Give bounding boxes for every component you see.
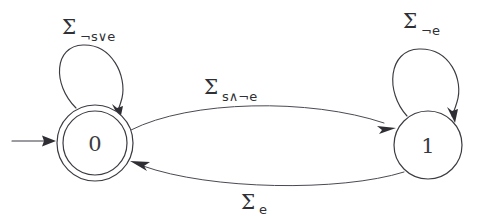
state-node-1[interactable]: 1 xyxy=(394,111,462,179)
sigma-subscript: e xyxy=(259,202,267,216)
sigma-symbol: Σ xyxy=(241,190,255,214)
automaton-canvas: 0 1 Σ ¬s∨e Σ ¬e Σ s∧¬e Σ e xyxy=(0,0,484,216)
sigma-symbol: Σ xyxy=(62,15,76,39)
label-transition-1-to-0: Σ e xyxy=(241,190,267,216)
state-label-0: 0 xyxy=(88,132,101,156)
sigma-subscript: ¬e xyxy=(421,23,440,38)
sigma-symbol: Σ xyxy=(403,9,417,33)
label-self-loop-state-1: Σ ¬e xyxy=(403,9,440,38)
state-label-1: 1 xyxy=(421,134,434,158)
sigma-symbol: Σ xyxy=(204,75,218,99)
label-transition-0-to-1: Σ s∧¬e xyxy=(204,75,257,104)
automaton-figure: 0 1 Σ ¬s∨e Σ ¬e Σ s∧¬e Σ e xyxy=(0,0,484,216)
transition-1-to-0[interactable] xyxy=(130,161,404,186)
transition-0-to-1[interactable] xyxy=(131,106,396,134)
sigma-subscript: ¬s∨e xyxy=(80,29,115,44)
sigma-subscript: s∧¬e xyxy=(222,89,257,104)
label-self-loop-state-0: Σ ¬s∨e xyxy=(62,15,115,44)
initial-state-arrow xyxy=(12,136,56,147)
state-node-0[interactable]: 0 xyxy=(57,105,133,181)
